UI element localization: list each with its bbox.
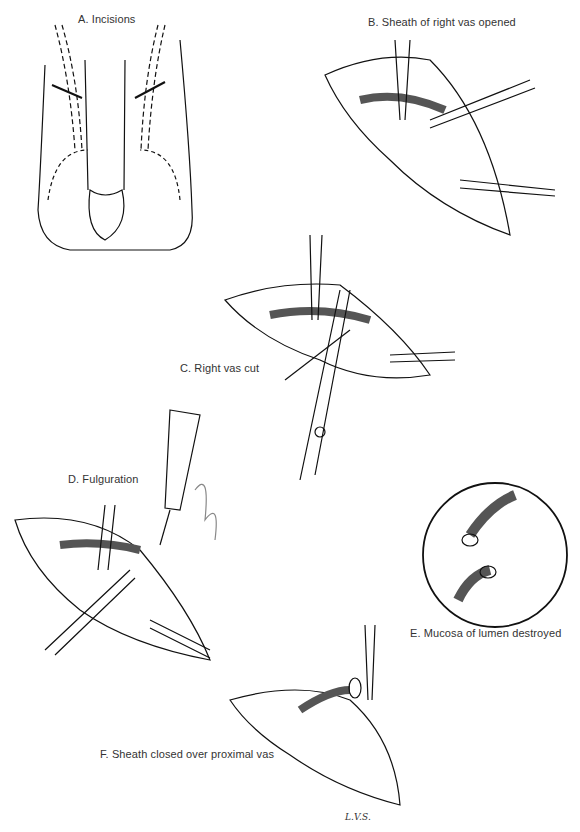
panel-e-label: E. Mucosa of lumen destroyed: [410, 627, 561, 639]
panel-f-drawing: [230, 625, 400, 805]
panel-f-label: F. Sheath closed over proximal vas: [100, 748, 274, 760]
illustration-canvas: [0, 0, 580, 832]
panel-b-label: B. Sheath of right vas opened: [368, 16, 516, 28]
panel-d-label: D. Fulguration: [68, 473, 139, 485]
panel-d-drawing: [15, 410, 216, 660]
panel-b-drawing: [325, 40, 555, 235]
panel-c-drawing: [225, 235, 455, 480]
panel-e-drawing: [423, 483, 567, 627]
panel-c-label: C. Right vas cut: [180, 362, 259, 374]
panel-a-drawing: [38, 25, 192, 250]
artist-signature: L.V.S.: [345, 812, 371, 822]
panel-a-label: A. Incisions: [78, 13, 135, 25]
